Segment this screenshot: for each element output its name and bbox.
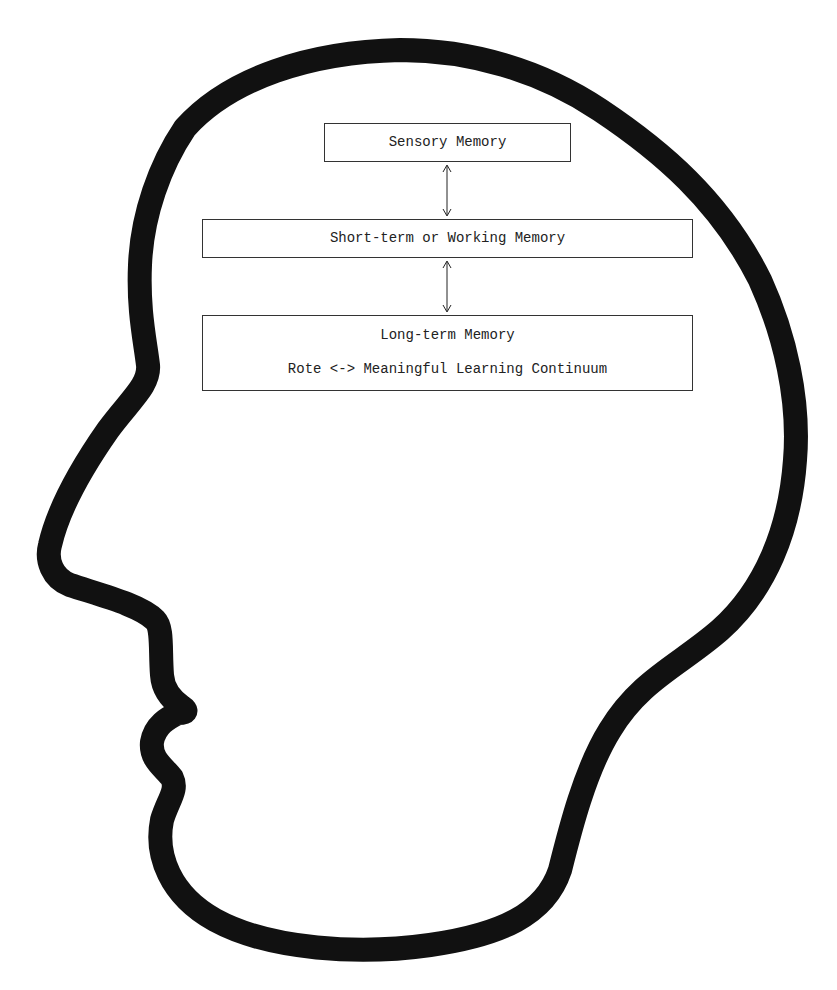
short-term-memory-box: Short-term or Working Memory: [202, 219, 693, 258]
head-silhouette-path: [49, 50, 796, 950]
sensory-memory-label: Sensory Memory: [389, 134, 507, 150]
short-term-memory-label: Short-term or Working Memory: [330, 230, 565, 246]
long-term-memory-box: Long-term Memory Rote <-> Meaningful Lea…: [202, 315, 693, 391]
learning-continuum-label: Rote <-> Meaningful Learning Continuum: [203, 361, 692, 377]
sensory-memory-box: Sensory Memory: [324, 123, 571, 162]
long-term-memory-label: Long-term Memory: [203, 327, 692, 343]
